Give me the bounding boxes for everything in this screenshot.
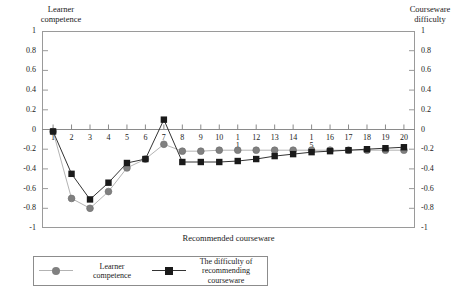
y-axis-left-tick-label: 0.6 [2, 66, 36, 74]
left-axis-title: Learner competence [26, 4, 96, 24]
y-axis-left-tick-label: 0.8 [2, 47, 36, 55]
chart-figure: Learner competence Courseware difficulty… [0, 0, 462, 297]
y-axis-left-tick-label: -1 [2, 224, 36, 232]
y-axis-left-tick-label: 0.4 [2, 86, 36, 94]
legend-marker-circle-icon [39, 264, 73, 278]
y-axis-left-tick-label: -0.8 [2, 204, 36, 212]
y-axis-right-tick-label: 1 [421, 27, 455, 35]
y-axis-right-tick-label: 0.4 [421, 86, 455, 94]
y-axis-right-tick-label: -0.4 [421, 165, 455, 173]
x-axis-tick-label: 7 [155, 134, 173, 142]
y-axis-right-tick-label: -1 [421, 224, 455, 232]
legend-item-learner-competence: Learner competence [39, 257, 151, 285]
y-axis-right-tick-label: -0.2 [421, 145, 455, 153]
x-axis-tick-label: 16 [321, 134, 339, 142]
legend-item-courseware-difficulty: The difficulty of recommending coursewar… [152, 257, 266, 285]
y-axis-left-tick-label: 1 [2, 27, 36, 35]
y-axis-right-tick-label: -0.8 [421, 204, 455, 212]
right-axis-title: Courseware difficulty [398, 4, 462, 24]
x-axis-tick-label: 1 1 [229, 134, 247, 150]
y-axis-left-tick-label: 0.2 [2, 106, 36, 114]
legend-label-courseware-difficulty: The difficulty of recommending coursewar… [186, 257, 266, 286]
x-axis-tick-label: 10 [210, 134, 228, 142]
x-axis-tick-label: 14 [284, 134, 302, 142]
y-axis-left-tick-label: -0.2 [2, 145, 36, 153]
x-axis-tick-label: 1 5 [303, 134, 321, 150]
legend-marker-square-icon [152, 264, 186, 278]
x-axis-tick-label: 8 [173, 134, 191, 142]
chart-legend: Learner competence The difficulty of rec… [33, 256, 268, 286]
legend-label-learner-competence: Learner competence [73, 262, 151, 281]
x-axis-tick-label: 6 [136, 134, 154, 142]
x-axis-tick-label: 5 [118, 134, 136, 142]
y-axis-right-tick-label: 0.8 [421, 47, 455, 55]
x-axis-tick-label: 12 [247, 134, 265, 142]
x-axis-tick-label: 17 [340, 134, 358, 142]
x-axis-tick-label: 13 [266, 134, 284, 142]
y-axis-left-tick-label: -0.4 [2, 165, 36, 173]
x-axis-tick-label: 20 [395, 134, 413, 142]
y-axis-right-tick-label: 0.2 [421, 106, 455, 114]
y-axis-left-tick-label: 0 [2, 126, 36, 134]
x-axis-tick-label: 4 [99, 134, 117, 142]
x-axis-tick-label: 19 [376, 134, 394, 142]
x-axis-tick-label: 2 [63, 134, 81, 142]
x-axis-tick-label: 9 [192, 134, 210, 142]
x-axis-title: Recommended courseware [42, 233, 415, 243]
y-axis-left-tick-label: -0.6 [2, 185, 36, 193]
x-axis-tick-label: 18 [358, 134, 376, 142]
y-axis-right-tick-label: 0 [421, 126, 455, 134]
x-axis-tick-label: 3 [81, 134, 99, 142]
y-axis-right-tick-label: -0.6 [421, 185, 455, 193]
y-axis-right-tick-label: 0.6 [421, 66, 455, 74]
plot-area [42, 31, 415, 228]
x-axis-tick-label: 1 [44, 134, 62, 142]
